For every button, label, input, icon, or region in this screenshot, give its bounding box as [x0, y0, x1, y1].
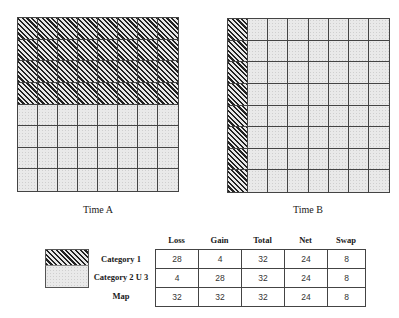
- cell-loss: 4: [156, 269, 199, 288]
- grid-cell-category-1: [138, 61, 158, 83]
- grid-cell-category-2-3: [78, 148, 98, 170]
- legend-swatch-category-2-3: [45, 265, 89, 288]
- cell-swap: 8: [328, 269, 366, 288]
- transition-table: 28 4 32 24 8 4 28 32 24 8 32 32 32 24 8: [155, 249, 366, 307]
- grid-cell-category-2-3: [369, 84, 389, 106]
- grid-cell-category-2-3: [138, 126, 158, 148]
- grid-cell-category-2-3: [309, 127, 329, 149]
- column-header-net: Net: [284, 235, 327, 245]
- grid-cell-category-2-3: [329, 62, 349, 84]
- grid-cell-category-2-3: [288, 170, 308, 192]
- grid-cell-category-2-3: [248, 41, 268, 63]
- grid-cell-category-2-3: [98, 105, 118, 127]
- grid-cell-category-2-3: [118, 126, 138, 148]
- grid-cell-category-2-3: [329, 19, 349, 41]
- grid-cell-category-2-3: [288, 127, 308, 149]
- column-header-swap: Swap: [327, 235, 365, 245]
- grid-cell-category-1: [78, 61, 98, 83]
- grid-cell-category-2-3: [118, 148, 138, 170]
- grid-cell-category-2-3: [268, 149, 288, 171]
- time-b-grid: [227, 18, 390, 193]
- time-a-caption: Time A: [58, 204, 138, 215]
- grid-cell-category-2-3: [158, 148, 178, 170]
- cell-total: 32: [242, 288, 285, 307]
- grid-cell-category-2-3: [329, 84, 349, 106]
- grid-cell-category-1: [158, 61, 178, 83]
- time-a-grid: [17, 17, 179, 192]
- grid-cell-category-2-3: [118, 105, 138, 127]
- grid-cell-category-1: [118, 18, 138, 40]
- grid-cell-category-1: [158, 18, 178, 40]
- grid-cell-category-2-3: [248, 170, 268, 192]
- cell-gain: 32: [199, 288, 242, 307]
- grid-cell-category-2-3: [138, 105, 158, 127]
- grid-cell-category-1: [58, 61, 78, 83]
- grid-cell-category-2-3: [329, 127, 349, 149]
- cell-total: 32: [242, 269, 285, 288]
- grid-cell-category-2-3: [18, 169, 38, 191]
- grid-cell-category-2-3: [138, 169, 158, 191]
- grid-cell-category-1: [98, 61, 118, 83]
- grid-cell-category-1: [58, 18, 78, 40]
- grid-cell-category-2-3: [268, 41, 288, 63]
- table-row-map: 32 32 32 24 8: [156, 288, 366, 307]
- grid-cell-category-2-3: [268, 127, 288, 149]
- grid-cell-category-2-3: [288, 62, 308, 84]
- grid-cell-category-2-3: [268, 62, 288, 84]
- grid-cell-category-1: [138, 40, 158, 62]
- grid-cell-category-2-3: [329, 106, 349, 128]
- grid-cell-category-2-3: [349, 84, 369, 106]
- cell-gain: 4: [199, 250, 242, 269]
- grid-cell-category-1: [78, 40, 98, 62]
- grid-cell-category-2-3: [309, 149, 329, 171]
- grid-cell-category-2-3: [369, 127, 389, 149]
- grid-cell-category-2-3: [78, 169, 98, 191]
- grid-cell-category-2-3: [288, 106, 308, 128]
- cell-gain: 28: [199, 269, 242, 288]
- grid-cell-category-2-3: [248, 84, 268, 106]
- cell-loss: 28: [156, 250, 199, 269]
- grid-cell-category-1: [158, 40, 178, 62]
- row-label-category-2-3: Category 2 U 3: [86, 272, 156, 282]
- grid-cell-category-2-3: [309, 41, 329, 63]
- grid-cell-category-1: [38, 83, 58, 105]
- grid-cell-category-1: [228, 127, 248, 149]
- grid-cell-category-2-3: [18, 126, 38, 148]
- grid-cell-category-2-3: [58, 148, 78, 170]
- grid-cell-category-2-3: [309, 106, 329, 128]
- grid-cell-category-2-3: [329, 41, 349, 63]
- grid-cell-category-1: [18, 83, 38, 105]
- grid-cell-category-2-3: [18, 105, 38, 127]
- grid-cell-category-2-3: [58, 105, 78, 127]
- grid-cell-category-2-3: [349, 170, 369, 192]
- cell-swap: 8: [328, 250, 366, 269]
- grid-cell-category-1: [228, 84, 248, 106]
- grid-cell-category-2-3: [38, 148, 58, 170]
- grid-cell-category-2-3: [158, 169, 178, 191]
- column-header-gain: Gain: [198, 235, 241, 245]
- grid-cell-category-2-3: [38, 105, 58, 127]
- grid-cell-category-2-3: [98, 148, 118, 170]
- grid-cell-category-1: [18, 61, 38, 83]
- grid-cell-category-2-3: [138, 148, 158, 170]
- grid-cell-category-2-3: [248, 149, 268, 171]
- grid-cell-category-2-3: [248, 62, 268, 84]
- grid-cell-category-2-3: [369, 62, 389, 84]
- grid-cell-category-2-3: [118, 169, 138, 191]
- grid-cell-category-2-3: [158, 126, 178, 148]
- grid-cell-category-2-3: [268, 170, 288, 192]
- grid-cell-category-1: [58, 40, 78, 62]
- grid-cell-category-1: [118, 61, 138, 83]
- grid-cell-category-1: [228, 170, 248, 192]
- column-header-total: Total: [241, 235, 284, 245]
- cell-net: 24: [285, 269, 328, 288]
- grid-cell-category-1: [138, 83, 158, 105]
- grid-cell-category-1: [58, 83, 78, 105]
- grid-cell-category-1: [78, 83, 98, 105]
- row-label-map: Map: [86, 291, 156, 301]
- table-row-category-1: 28 4 32 24 8: [156, 250, 366, 269]
- grid-cell-category-2-3: [268, 19, 288, 41]
- grid-cell-category-2-3: [78, 126, 98, 148]
- grid-cell-category-1: [228, 41, 248, 63]
- grid-cell-category-1: [38, 18, 58, 40]
